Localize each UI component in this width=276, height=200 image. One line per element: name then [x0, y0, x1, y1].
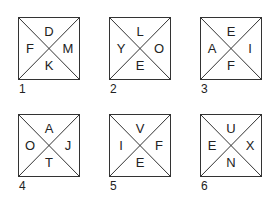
right-letter: J: [61, 139, 75, 152]
left-letter: Y: [114, 42, 128, 55]
top-letter: D: [42, 25, 56, 38]
right-letter: X: [243, 139, 257, 152]
square-number-label: 3: [201, 83, 208, 95]
bottom-letter: T: [42, 156, 56, 169]
square-4: AOJT: [18, 114, 80, 177]
bottom-letter: E: [133, 59, 147, 72]
square-number-label: 1: [19, 83, 26, 95]
bottom-letter: E: [133, 156, 147, 169]
right-letter: F: [152, 139, 166, 152]
square-number-label: 2: [110, 83, 117, 95]
square-number-label: 4: [19, 180, 26, 192]
left-letter: A: [205, 42, 219, 55]
square-2: LYOE: [109, 17, 171, 80]
square-1: DFMK: [18, 17, 80, 80]
top-letter: L: [133, 25, 147, 38]
left-letter: I: [114, 139, 128, 152]
top-letter: E: [224, 25, 238, 38]
top-letter: V: [133, 122, 147, 135]
left-letter: E: [205, 139, 219, 152]
right-letter: O: [152, 42, 166, 55]
square-number-label: 6: [201, 180, 208, 192]
bottom-letter: N: [224, 156, 238, 169]
top-letter: A: [42, 122, 56, 135]
right-letter: I: [243, 42, 257, 55]
left-letter: O: [23, 139, 37, 152]
right-letter: M: [61, 42, 75, 55]
square-number-label: 5: [110, 180, 117, 192]
bottom-letter: F: [224, 59, 238, 72]
square-5: VIFE: [109, 114, 171, 177]
bottom-letter: K: [42, 59, 56, 72]
square-6: UEXN: [200, 114, 262, 177]
top-letter: U: [224, 122, 238, 135]
left-letter: F: [23, 42, 37, 55]
square-3: EAIF: [200, 17, 262, 80]
